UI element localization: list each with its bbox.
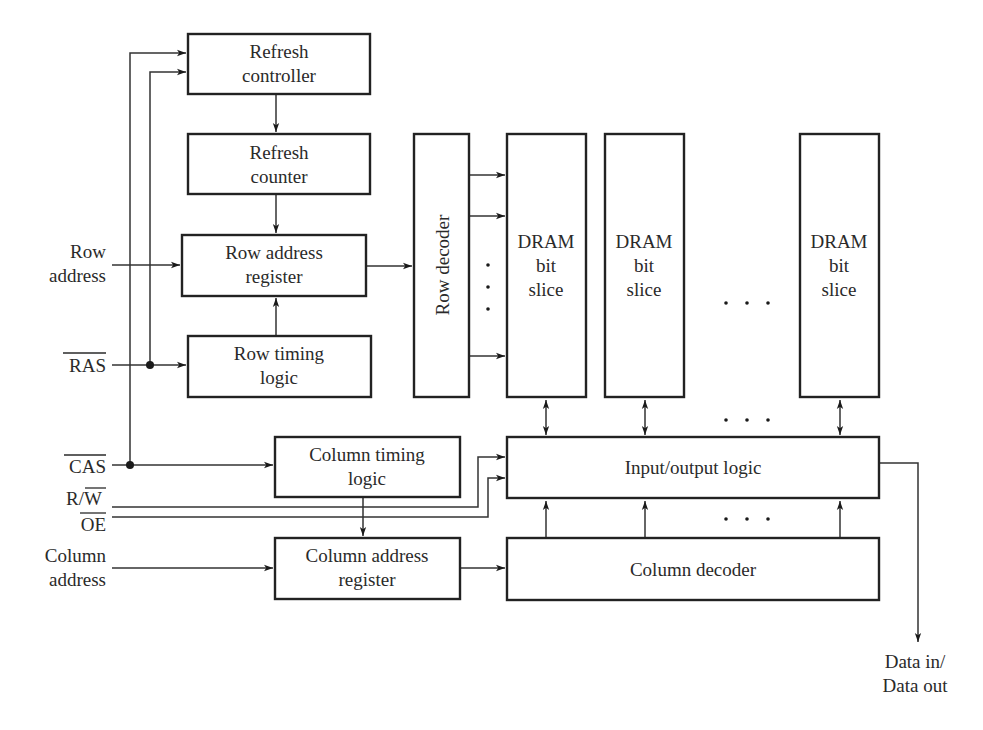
slice1-label-2: bit <box>536 255 557 276</box>
row-ellipsis-dot-2 <box>486 285 490 289</box>
svg-text:RAS: RAS <box>69 355 106 376</box>
refresh-counter-block: Refresh counter <box>188 134 370 194</box>
column-address-label-2: address <box>49 569 106 590</box>
cas-label: CAS <box>64 455 106 477</box>
refresh-counter-label-2: counter <box>251 166 309 187</box>
dram-bit-slice-2: DRAM bit slice <box>605 134 684 397</box>
slicen-label-1: DRAM <box>810 231 867 252</box>
svg-text:W: W <box>84 488 102 509</box>
rar-label-2: register <box>246 266 304 287</box>
row-decoder-block: Row decoder <box>414 134 469 397</box>
column-timing-logic-block: Column timing logic <box>275 437 460 497</box>
rw-label: R/ W <box>66 488 106 509</box>
ras-junction-dot <box>146 361 154 369</box>
car-label-1: Column address <box>306 545 429 566</box>
ctl-label-1: Column timing <box>309 444 425 465</box>
row-address-label-1: Row <box>70 241 106 262</box>
ctl-label-2: logic <box>348 468 386 489</box>
refresh-controller-label-1: Refresh <box>249 41 309 62</box>
data-io-label-2: Data out <box>883 675 949 696</box>
oe-label: OE <box>80 513 106 535</box>
refresh-counter-label-1: Refresh <box>249 142 309 163</box>
cas-to-refresh-wire <box>130 53 186 465</box>
column-decoder-label: Column decoder <box>630 559 757 580</box>
svg-text:CAS: CAS <box>69 456 106 477</box>
column-address-register-block: Column address register <box>275 538 460 599</box>
io-logic-label: Input/output logic <box>625 457 762 478</box>
slice2-label-1: DRAM <box>615 231 672 252</box>
slice-ellipsis <box>724 301 770 305</box>
rtl-label-2: logic <box>260 367 298 388</box>
slice1-label-1: DRAM <box>517 231 574 252</box>
slicen-label-2: bit <box>829 255 850 276</box>
io-logic-block: Input/output logic <box>507 437 879 498</box>
row-address-register-block: Row address register <box>182 235 366 296</box>
dram-block-diagram: Refresh controller Refresh counter Row a… <box>0 0 983 730</box>
svg-text:R/: R/ <box>66 488 85 509</box>
ras-to-refresh-wire <box>150 72 186 365</box>
data-io-wire <box>880 463 918 642</box>
dram-bit-slice-1: DRAM bit slice <box>507 134 586 397</box>
data-io-label-1: Data in/ <box>885 651 946 672</box>
cas-junction-dot <box>126 461 134 469</box>
car-label-2: register <box>339 569 397 590</box>
slice2-label-3: slice <box>627 279 662 300</box>
row-ellipsis-dot-3 <box>486 307 490 311</box>
column-decoder-block: Column decoder <box>507 538 879 600</box>
row-timing-logic-block: Row timing logic <box>188 336 371 397</box>
slice1-label-3: slice <box>529 279 564 300</box>
rar-label-1: Row address <box>225 242 323 263</box>
ras-label: RAS <box>63 353 106 376</box>
row-ellipsis-dot-1 <box>486 263 490 267</box>
column-address-label-1: Column <box>45 545 107 566</box>
refresh-controller-block: Refresh controller <box>188 34 370 94</box>
dram-bit-slice-n: DRAM bit slice <box>800 134 879 397</box>
refresh-controller-label-2: controller <box>242 65 317 86</box>
row-decoder-label: Row decoder <box>432 214 453 315</box>
rtl-label-1: Row timing <box>234 343 325 364</box>
row-address-label-2: address <box>49 265 106 286</box>
slicen-label-3: slice <box>822 279 857 300</box>
bus-ellipsis-bottom <box>724 517 770 521</box>
svg-text:OE: OE <box>81 514 106 535</box>
bus-ellipsis-top <box>724 418 770 422</box>
slice2-label-2: bit <box>634 255 655 276</box>
